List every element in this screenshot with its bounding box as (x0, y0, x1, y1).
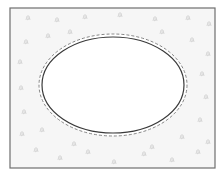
pool-site-plan-diagram (0, 0, 220, 177)
pool-outline (42, 37, 184, 133)
